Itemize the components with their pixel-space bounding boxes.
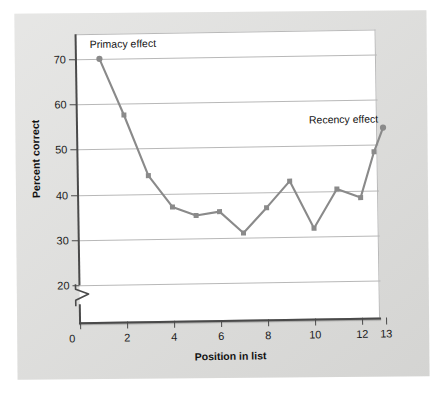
data-point (121, 112, 126, 117)
series-markers (96, 51, 388, 237)
data-point (371, 149, 376, 154)
data-point (358, 195, 363, 200)
chart-container: 70 60 50 40 30 20 0 2 4 6 8 10 12 13 Per… (0, 0, 444, 393)
data-point (217, 209, 222, 214)
figure-page: 70 60 50 40 30 20 0 2 4 6 8 10 12 13 Per… (0, 0, 444, 393)
data-point (241, 230, 246, 235)
data-series (0, 0, 444, 393)
data-point (287, 179, 292, 184)
data-point (194, 213, 199, 218)
data-point (264, 205, 269, 210)
data-point (380, 124, 386, 130)
data-point (311, 226, 316, 231)
data-point (146, 173, 151, 178)
data-point (96, 56, 102, 62)
data-point (170, 204, 175, 209)
data-point (334, 186, 339, 191)
series-line (99, 54, 384, 235)
